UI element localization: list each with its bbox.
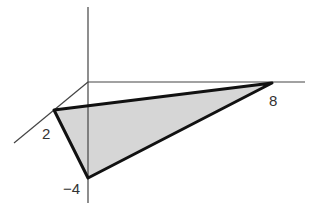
coordinate-diagram: 8 2 −4 [0, 0, 317, 216]
y-intercept-label: 8 [269, 92, 277, 109]
z-intercept-label: −4 [63, 180, 80, 197]
x-intercept-label: 2 [42, 125, 50, 142]
